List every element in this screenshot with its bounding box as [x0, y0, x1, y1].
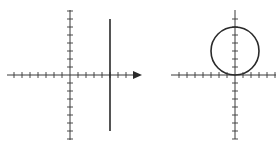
left-x-axis-arrowhead-icon	[133, 71, 142, 79]
right-plot-circle	[171, 10, 276, 139]
diagram-canvas	[0, 0, 276, 147]
left-plot-vertical-line	[7, 10, 142, 140]
right-plot-ticks	[179, 19, 275, 139]
